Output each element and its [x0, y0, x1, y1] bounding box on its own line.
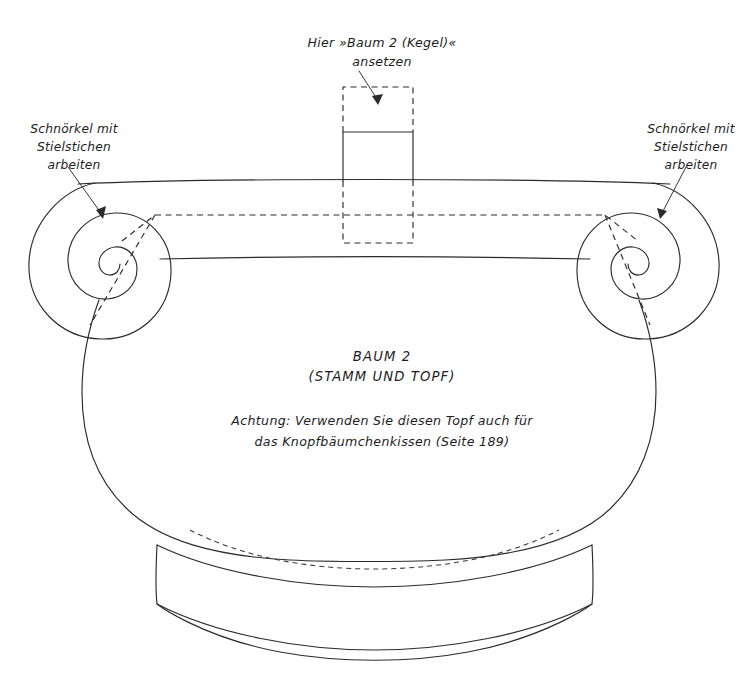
- pattern-drawing-canvas: Hier »Baum 2 (Kegel)« ansetzen Schnörkel…: [0, 0, 741, 683]
- left-scroll-label-line2: Stielstichen: [37, 140, 111, 154]
- trunk-seam-allowance-box-lower: [343, 181, 413, 243]
- right-scroll-label-line3: arbeiten: [664, 158, 717, 172]
- trunk-seam-allowance-box: [343, 87, 413, 132]
- right-scroll-seam-diagonal: [605, 215, 650, 325]
- trunk-attachment-tab: [343, 132, 413, 181]
- reuse-note-line1: Achtung: Verwenden Sie diesen Topf auch …: [230, 413, 533, 428]
- attach-cone-label-line2: ansetzen: [352, 54, 412, 69]
- pattern-sheet: Hier »Baum 2 (Kegel)« ansetzen Schnörkel…: [0, 0, 741, 683]
- pot-body-outline: [82, 300, 656, 562]
- left-scroll-label-leader-line: [68, 167, 101, 213]
- right-scroll-outer-arc: [577, 183, 719, 339]
- right-scroll-label-arrow-head: [657, 208, 667, 219]
- pot-foot-band: [156, 545, 593, 660]
- attach-label-leader-line: [359, 71, 377, 99]
- piece-title-line1: BAUM 2: [353, 349, 411, 364]
- rim-seam-allowance-line: [122, 215, 638, 241]
- attach-cone-label-line1: Hier »Baum 2 (Kegel)«: [308, 35, 457, 50]
- pot-foot-band-bottom-edge: [157, 604, 592, 650]
- left-scroll-label-line3: arbeiten: [47, 158, 100, 172]
- left-scroll-seam-diagonal: [90, 215, 155, 325]
- attach-label-arrow-head: [372, 94, 383, 105]
- left-scroll-label-line1: Schnörkel mit: [30, 122, 118, 136]
- right-scroll-label-leader-line: [662, 167, 686, 213]
- right-scroll-label-line2: Stielstichen: [654, 140, 728, 154]
- foot-seam-allowance-arc: [190, 530, 559, 569]
- left-scroll-outer-arc: [29, 183, 171, 339]
- right-scroll-label-line1: Schnörkel mit: [647, 122, 735, 136]
- pot-rim-bottom-edge: [160, 257, 590, 259]
- right-scroll-inner-eye: [628, 264, 638, 275]
- pot-rim-top-edge: [78, 180, 670, 185]
- piece-title-line2: (STAMM UND TOPF): [309, 369, 456, 384]
- pot-foot-band-top-edge: [157, 545, 592, 587]
- reuse-note-line2: das Knopfbäumchenkissen (Seite 189): [255, 434, 510, 449]
- left-scroll-inner-eye: [110, 264, 120, 275]
